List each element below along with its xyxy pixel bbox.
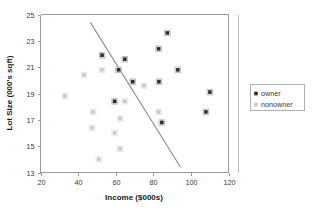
- y-axis-title: Lot Size (000's sqft): [5, 55, 14, 130]
- data-point-nonowner[interactable]: [83, 73, 86, 76]
- scatter-plot: 13151719212325 20406080100120 Income ($0…: [0, 0, 315, 213]
- y-tick-label: 15: [27, 142, 35, 151]
- legend-label-owner[interactable]: owner: [261, 89, 281, 98]
- data-point-owner[interactable]: [176, 68, 179, 71]
- y-tick-label: 19: [27, 90, 35, 99]
- data-point-nonowner[interactable]: [119, 147, 122, 150]
- discriminant-line-annotation: [90, 22, 180, 167]
- x-tick-label: 20: [38, 178, 46, 187]
- x-tick-label: 120: [224, 178, 236, 187]
- legend[interactable]: ownernonowner: [251, 85, 305, 111]
- y-axis: 13151719212325: [27, 11, 41, 178]
- data-point-owner[interactable]: [131, 80, 134, 83]
- data-series-layer: [62, 30, 212, 162]
- y-tick-label: 23: [27, 37, 35, 46]
- data-point-nonowner[interactable]: [101, 68, 104, 71]
- y-tick-label: 25: [27, 11, 35, 20]
- data-point-owner[interactable]: [113, 100, 116, 103]
- data-point-nonowner[interactable]: [157, 110, 160, 113]
- series-nonowner: [62, 67, 161, 162]
- data-point-owner[interactable]: [157, 47, 160, 50]
- data-point-owner[interactable]: [157, 80, 160, 83]
- data-point-owner[interactable]: [123, 58, 126, 61]
- legend-label-nonowner[interactable]: nonowner: [261, 100, 293, 109]
- data-point-owner[interactable]: [160, 121, 163, 124]
- x-tick-label: 100: [186, 178, 198, 187]
- chart-figure: 13151719212325 20406080100120 Income ($0…: [0, 0, 315, 213]
- data-point-owner[interactable]: [166, 31, 169, 34]
- y-tick-label: 17: [27, 116, 35, 125]
- data-point-nonowner[interactable]: [119, 117, 122, 120]
- data-point-nonowner[interactable]: [113, 131, 116, 134]
- y-tick-label: 13: [27, 169, 35, 178]
- legend-nonowner-marker-icon: [254, 103, 257, 106]
- data-point-nonowner[interactable]: [63, 95, 66, 98]
- data-point-nonowner[interactable]: [90, 126, 93, 129]
- x-axis: 20406080100120: [38, 173, 236, 187]
- data-point-nonowner[interactable]: [97, 158, 100, 161]
- x-tick-label: 40: [75, 178, 83, 187]
- data-point-owner[interactable]: [208, 91, 211, 94]
- data-point-nonowner[interactable]: [123, 100, 126, 103]
- legend-owner-marker-icon: [254, 92, 257, 95]
- x-tick-label: 80: [150, 178, 158, 187]
- data-point-nonowner[interactable]: [92, 110, 95, 113]
- x-tick-label: 60: [113, 178, 121, 187]
- annotation-layer: [90, 22, 180, 167]
- x-axis-title: Income ($000s): [105, 193, 163, 202]
- data-point-owner[interactable]: [101, 54, 104, 57]
- y-tick-label: 21: [27, 63, 35, 72]
- data-point-owner[interactable]: [117, 68, 120, 71]
- data-point-owner[interactable]: [204, 110, 207, 113]
- data-point-nonowner[interactable]: [142, 84, 145, 87]
